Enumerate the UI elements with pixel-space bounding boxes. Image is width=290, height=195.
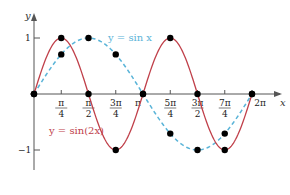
x-tick-label-den: 2	[195, 109, 201, 119]
x-tick-label-den: 4	[222, 109, 228, 119]
data-point	[58, 51, 64, 57]
x-tick-label: π	[58, 98, 64, 108]
axes: y x 1 −1	[18, 10, 286, 170]
y-tick-label-1: 1	[25, 33, 31, 43]
x-tick-label-den: 2	[86, 109, 92, 119]
data-point	[222, 147, 228, 153]
x-tick-label: 7π	[219, 98, 231, 108]
x-tick-label: 5π	[164, 98, 176, 108]
data-point	[167, 35, 173, 41]
x-tick-label-den: 4	[167, 109, 173, 119]
data-point	[113, 51, 119, 57]
x-tick-label-den: 4	[113, 109, 119, 119]
data-point	[194, 91, 200, 97]
data-point	[58, 35, 64, 41]
chart-canvas: y x 1 −1 π4π23π4π5π43π27π42π y = sin x y…	[0, 0, 290, 195]
x-tick-label-den: 4	[58, 109, 64, 119]
data-point	[167, 130, 173, 136]
data-point	[113, 147, 119, 153]
sin-label: y = sin x	[107, 32, 152, 43]
x-axis-label: x	[280, 97, 286, 108]
sin2x-label: y = sin(2x)	[48, 125, 104, 136]
data-point	[31, 91, 37, 97]
x-tick-label: 3π	[110, 98, 122, 108]
data-point	[194, 147, 200, 153]
data-point	[249, 91, 255, 97]
y-axis-label: y	[24, 10, 31, 21]
data-point	[85, 91, 91, 97]
data-point	[85, 35, 91, 41]
y-axis-arrow-icon	[31, 13, 37, 21]
data-point	[222, 130, 228, 136]
data-point	[140, 91, 146, 97]
y-tick-label-neg1: −1	[18, 145, 31, 155]
x-tick-label: 2π	[254, 98, 266, 108]
